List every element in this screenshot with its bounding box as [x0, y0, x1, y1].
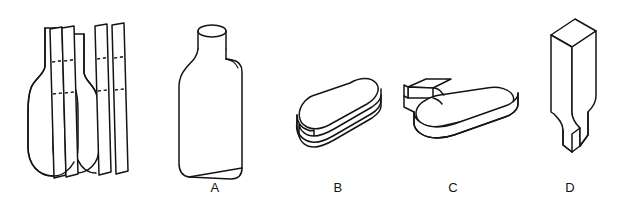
option-c-figure: C [404, 79, 518, 195]
option-a-neck-opening [198, 25, 226, 37]
option-a-figure: A [179, 25, 242, 195]
stimulus-group [28, 23, 128, 178]
option-c-shoulder [433, 88, 444, 95]
figure-board: A B [0, 0, 620, 202]
option-a-shoulder-notch [226, 49, 232, 60]
option-c-neck-front [408, 87, 433, 98]
option-d-figure: D [551, 19, 596, 195]
bottle-back-overlap-edge [84, 34, 96, 93]
cutting-strip-3 [95, 24, 111, 175]
option-b-label: B [334, 180, 343, 195]
option-a-body-outline [179, 49, 242, 179]
option-a-label: A [211, 180, 220, 195]
spatial-reasoning-figure: A B [0, 0, 620, 202]
option-b-figure: B [297, 79, 381, 196]
option-a-bottom-edge [189, 168, 242, 177]
option-d-label: D [565, 180, 575, 195]
cutting-strip-4 [112, 23, 128, 174]
bottle-front-overlap-edge [28, 28, 53, 176]
option-c-label: C [448, 180, 458, 195]
bottle-back-base-edge [78, 160, 96, 173]
